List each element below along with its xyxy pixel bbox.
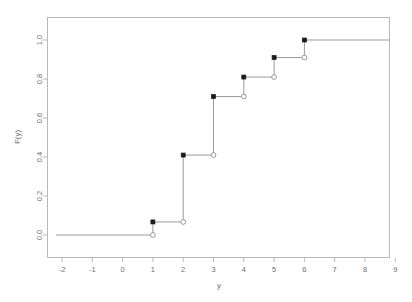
y-axis-title: F(y) [13, 130, 22, 145]
closed-point-marker [181, 153, 185, 157]
x-tick-label: -1 [89, 265, 96, 274]
x-tick-label: 9 [393, 265, 397, 274]
x-tick-label: 5 [272, 265, 276, 274]
y-tick-label: 0.4 [35, 152, 44, 162]
y-tick-label: 1.0 [35, 35, 44, 45]
closed-point-marker [151, 220, 155, 224]
chart-canvas: -2-10123456789 0.00.20.40.60.81.0 y F(y) [0, 0, 412, 302]
y-tick-label: 0.8 [35, 74, 44, 84]
closed-point-marker [302, 38, 306, 42]
open-point-marker [181, 220, 186, 225]
closed-point-marker [242, 75, 246, 79]
x-axis-title: y [217, 281, 221, 290]
plot-background [0, 0, 412, 302]
closed-point-marker [272, 56, 276, 60]
y-tick-label: 0.6 [35, 113, 44, 123]
x-tick-label: 0 [121, 265, 125, 274]
x-tick-label: 1 [151, 265, 155, 274]
x-tick-label: 6 [302, 265, 306, 274]
open-point-marker [272, 75, 277, 80]
open-point-marker [151, 233, 156, 238]
y-tick-label: 0.0 [35, 230, 44, 240]
open-point-marker [302, 55, 307, 60]
x-tick-label: 8 [363, 265, 367, 274]
x-tick-label: -2 [59, 265, 66, 274]
ecdf-plot: -2-10123456789 0.00.20.40.60.81.0 y F(y) [0, 0, 412, 302]
closed-point-marker [212, 95, 216, 99]
x-tick-label: 7 [333, 265, 337, 274]
open-point-marker [211, 153, 216, 158]
y-tick-label: 0.2 [35, 191, 44, 201]
open-point-marker [241, 94, 246, 99]
x-tick-label: 4 [242, 265, 246, 274]
x-tick-label: 3 [211, 265, 215, 274]
x-tick-label: 2 [181, 265, 185, 274]
